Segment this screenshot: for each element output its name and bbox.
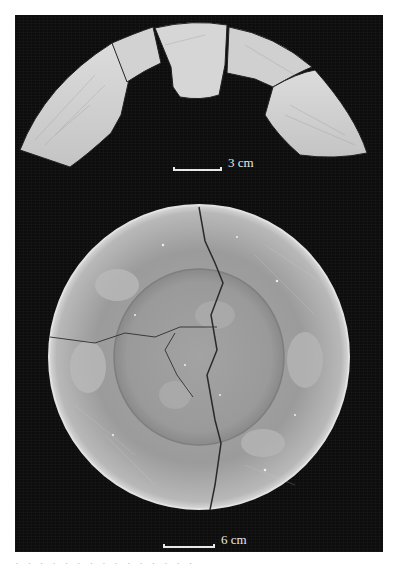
artifact-illustration xyxy=(15,15,383,552)
bowl xyxy=(49,205,349,510)
scale-bar-line xyxy=(163,544,215,548)
scale-label-3cm: 3 cm xyxy=(228,155,254,171)
scale-bar-6cm: 6 cm xyxy=(163,532,247,548)
figure-caption: · · · · · · · · · · · · · · · xyxy=(15,554,383,564)
scale-label-6cm: 6 cm xyxy=(221,532,247,548)
sherd-arc xyxy=(20,23,367,167)
scale-bar-line xyxy=(173,167,222,171)
scale-bar-3cm: 3 cm xyxy=(173,155,254,171)
figure-photo: 3 cm 6 cm xyxy=(15,15,383,552)
